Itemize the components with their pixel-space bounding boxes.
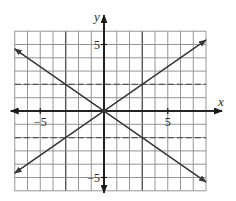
axis-labels: x y [92, 9, 224, 109]
x-axis-label: x [217, 94, 224, 109]
y-tick-label: 5 [94, 38, 100, 52]
x-tick-label: −5 [34, 115, 47, 129]
plot-area: x y −555−5 [0, 0, 236, 201]
coordinate-graph: x y −555−5 [0, 0, 236, 201]
y-axis-label: y [92, 9, 100, 24]
x-tick-label: 5 [165, 115, 171, 129]
y-tick-label: −5 [87, 171, 100, 185]
plotted-line-arrow [15, 40, 206, 173]
